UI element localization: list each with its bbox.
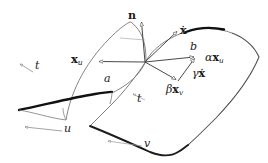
left-patch-outline [66, 22, 146, 120]
xdot-tangent-tick [120, 38, 145, 40]
beta-xv-base: x [172, 83, 179, 96]
right-patch-bottom-bold [90, 126, 188, 155]
label-alpha-xu: αxu [205, 52, 224, 63]
label-param-u: u [64, 123, 71, 134]
diagram-canvas [0, 0, 268, 163]
curve-a-bold [19, 92, 112, 110]
curve-b-bold [186, 28, 224, 32]
gamma-xdot-accent-mark: · [200, 65, 203, 75]
alpha-xu-subscript: u [219, 56, 224, 65]
patch-seam-line [110, 92, 112, 104]
xu-vector [99, 62, 145, 63]
label-curve-a: a [104, 73, 111, 84]
beta-xv-subscript: v [179, 88, 183, 97]
surface-patch-diagram: n ·x xu a b αxu γ·x βxv t u t v [0, 0, 268, 163]
left-patch-left-edge [63, 108, 66, 120]
label-beta-xv: βxv [166, 84, 183, 95]
curve-a-thin-continuation [19, 110, 66, 120]
xu-base: x [71, 52, 78, 66]
left-patch-seam-edge [112, 61, 146, 93]
beta-xv-vector [145, 62, 176, 80]
label-xdot: ·x [180, 25, 187, 36]
label-xu: xu [71, 54, 83, 66]
label-param-v: v [144, 138, 150, 149]
t-arrow-left [20, 64, 33, 72]
normal-vector-n [142, 22, 146, 62]
label-curve-b: b [190, 41, 197, 52]
label-normal-n: n [128, 10, 136, 21]
u-arrow [25, 127, 62, 131]
label-param-t-right: t [137, 93, 141, 104]
alpha-xu-vector [145, 57, 194, 62]
gamma-symbol: γ [192, 67, 199, 80]
xu-subscript: u [78, 58, 83, 67]
right-patch-right-edge [188, 33, 259, 145]
xdot-vector [145, 32, 177, 63]
label-param-t-left: t [35, 60, 39, 71]
xdot-accent-mark: · [182, 22, 185, 32]
label-gamma-xdot: γ·x [192, 68, 205, 79]
